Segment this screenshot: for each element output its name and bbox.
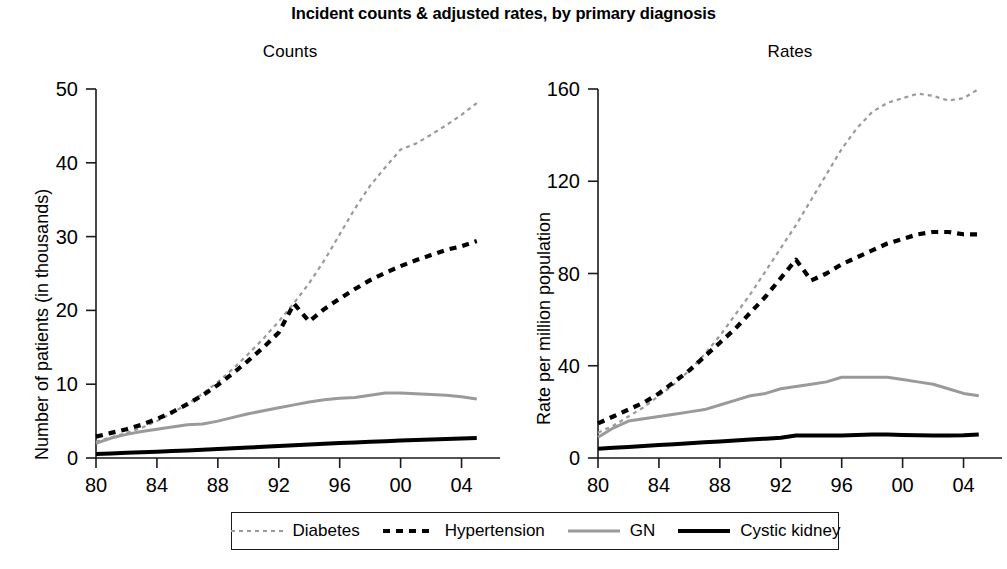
series-line-hypertension: [598, 232, 979, 423]
x-tick-label: 84: [146, 474, 168, 496]
x-tick-label: 84: [648, 474, 670, 496]
x-tick-label: 88: [207, 474, 229, 496]
legend-label: GN: [630, 521, 656, 541]
figure-container: Incident counts & adjusted rates, by pri…: [0, 0, 1007, 569]
y-tick-label: 20: [56, 299, 78, 321]
series-line-diabetes: [96, 103, 477, 442]
solid-line-icon: [677, 524, 731, 538]
legend-item[interactable]: GN: [567, 521, 656, 541]
dashed-line-icon: [382, 524, 436, 538]
series-line-gn: [598, 377, 979, 437]
y-tick-label: 0: [569, 447, 580, 469]
legend-label: Hypertension: [445, 521, 545, 541]
x-tick-label: 00: [389, 474, 411, 496]
line-chart-rates: 0408012016080848892960004: [502, 60, 1007, 480]
x-tick-label: 04: [952, 474, 974, 496]
y-tick-label: 80: [558, 263, 580, 285]
legend-item[interactable]: Diabetes: [230, 521, 360, 541]
x-tick-label: 80: [85, 474, 107, 496]
x-tick-label: 88: [709, 474, 731, 496]
y-tick-label: 40: [56, 152, 78, 174]
panel-title-counts: Counts: [210, 42, 370, 62]
y-tick-label: 120: [547, 170, 580, 192]
y-tick-label: 50: [56, 78, 78, 100]
figure-title: Incident counts & adjusted rates, by pri…: [0, 4, 1007, 23]
line-chart-counts: 0102030405080848892960004: [0, 60, 505, 480]
legend: DiabetesHypertensionGNCystic kidney: [231, 512, 839, 550]
x-tick-label: 92: [268, 474, 290, 496]
y-tick-label: 40: [558, 355, 580, 377]
series-line-gn: [96, 393, 477, 443]
y-tick-label: 160: [547, 78, 580, 100]
x-tick-label: 96: [831, 474, 853, 496]
series-line-cystic-kidney: [598, 434, 979, 448]
x-tick-label: 04: [450, 474, 472, 496]
panel-title-rates: Rates: [710, 42, 870, 62]
legend-item[interactable]: Cystic kidney: [677, 521, 840, 541]
solid-line-icon: [567, 524, 621, 538]
dotted-line-icon: [230, 524, 284, 538]
y-tick-label: 10: [56, 373, 78, 395]
y-tick-label: 0: [67, 447, 78, 469]
x-tick-label: 00: [891, 474, 913, 496]
legend-label: Diabetes: [293, 521, 360, 541]
y-tick-label: 30: [56, 226, 78, 248]
legend-label: Cystic kidney: [740, 521, 840, 541]
x-tick-label: 96: [329, 474, 351, 496]
x-tick-label: 92: [770, 474, 792, 496]
series-line-cystic-kidney: [96, 438, 477, 454]
x-tick-label: 80: [587, 474, 609, 496]
legend-item[interactable]: Hypertension: [382, 521, 545, 541]
